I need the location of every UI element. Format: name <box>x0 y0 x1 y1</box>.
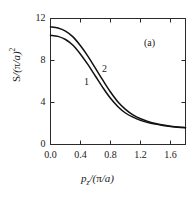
curve-label-1: 1 <box>84 76 89 87</box>
y-tick-label: 12 <box>24 12 46 23</box>
y-tick-label: 8 <box>24 54 46 65</box>
curve-label-2: 2 <box>102 63 107 74</box>
x-tick-label: 0.0 <box>38 149 64 160</box>
x-tick-label: 1.6 <box>158 149 184 160</box>
x-tick-label: 0.8 <box>98 149 124 160</box>
x-tick-label: 1.2 <box>128 149 154 160</box>
data-curve-1 <box>51 35 186 127</box>
y-tick-label: 0 <box>24 138 46 149</box>
figure-panel-a: S/(π/a)2 pz/(π/a) 0.00.40.81.21.60481212… <box>0 0 195 197</box>
data-curve-2 <box>51 27 186 128</box>
x-tick-label: 0.4 <box>68 149 94 160</box>
x-axis-label: pz/(π/a) <box>0 172 195 187</box>
y-tick-label: 4 <box>24 96 46 107</box>
panel-label: (a) <box>144 37 155 48</box>
y-axis-label: S/(π/a)2 <box>8 20 22 110</box>
